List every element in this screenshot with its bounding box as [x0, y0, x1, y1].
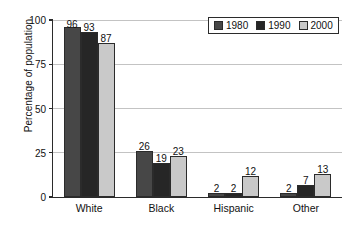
bar-other-1990[interactable]: 7	[297, 185, 314, 197]
x-tick-label-other: Other	[270, 202, 342, 214]
bar-hispanic-1990[interactable]: 2	[225, 193, 242, 197]
bar-white-2000[interactable]: 87	[98, 43, 115, 197]
legend-item-1980[interactable]: 1980	[214, 20, 248, 31]
bar-chart-figure: Percentage of population 025507510096938…	[0, 0, 356, 240]
legend-label-1980: 1980	[226, 20, 248, 31]
plot-area: 0255075100969387White261923Black2212Hisp…	[52, 20, 342, 198]
chart-legend: 198019902000	[208, 17, 339, 34]
x-tick-label-white: White	[53, 202, 125, 214]
bar-hispanic-1980[interactable]: 2	[208, 193, 225, 197]
bar-value-white-1990: 93	[84, 22, 95, 33]
bars-container: 261923	[125, 20, 197, 197]
bar-group-black: 261923Black	[125, 20, 197, 197]
bar-other-1980[interactable]: 2	[280, 193, 297, 197]
bar-value-other-2000: 13	[317, 164, 328, 175]
bar-hispanic-2000[interactable]: 12	[242, 176, 259, 197]
bar-value-white-1980: 96	[67, 19, 78, 30]
bar-group-white: 969387White	[53, 20, 125, 197]
bar-black-2000[interactable]: 23	[170, 156, 187, 197]
legend-swatch-2000	[299, 21, 308, 30]
bar-white-1980[interactable]: 96	[64, 27, 81, 197]
bar-value-hispanic-2000: 12	[245, 166, 256, 177]
bar-value-black-2000: 23	[173, 146, 184, 157]
x-tick-label-hispanic: Hispanic	[198, 202, 270, 214]
bars-container: 969387	[53, 20, 125, 197]
bar-value-hispanic-1990: 2	[231, 183, 237, 194]
legend-label-1990: 1990	[268, 20, 290, 31]
bar-other-2000[interactable]: 13	[314, 174, 331, 197]
legend-item-2000[interactable]: 2000	[299, 20, 333, 31]
bar-value-other-1990: 7	[303, 175, 309, 186]
bar-value-black-1990: 19	[156, 153, 167, 164]
legend-swatch-1990	[256, 21, 265, 30]
bar-black-1980[interactable]: 26	[136, 151, 153, 197]
bar-white-1990[interactable]: 93	[81, 32, 98, 197]
bar-value-black-1980: 26	[139, 141, 150, 152]
bar-value-hispanic-1980: 2	[214, 183, 220, 194]
legend-label-2000: 2000	[311, 20, 333, 31]
bar-black-1990[interactable]: 19	[153, 163, 170, 197]
legend-swatch-1980	[214, 21, 223, 30]
bar-group-hispanic: 2212Hispanic	[198, 20, 270, 197]
x-tick-label-black: Black	[125, 202, 197, 214]
bars-container: 2713	[270, 20, 342, 197]
legend-item-1990[interactable]: 1990	[256, 20, 290, 31]
bar-value-other-1980: 2	[286, 183, 292, 194]
bars-container: 2212	[198, 20, 270, 197]
bar-value-white-2000: 87	[101, 33, 112, 44]
bar-group-other: 2713Other	[270, 20, 342, 197]
